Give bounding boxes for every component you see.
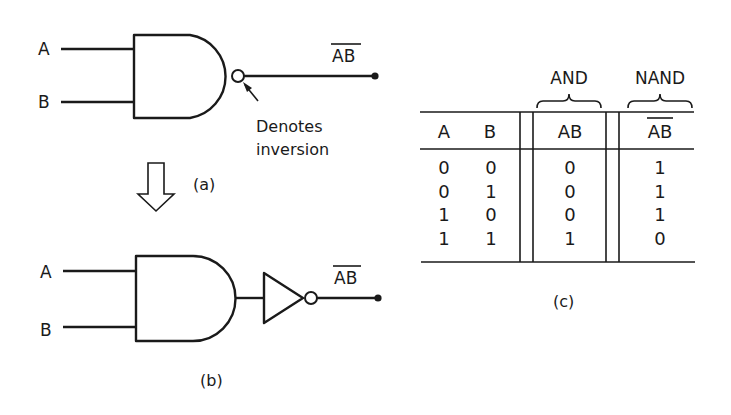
cell-nand: 1: [654, 204, 665, 225]
inversion-bubble-icon: [232, 70, 244, 82]
header-nand: AB: [648, 121, 673, 142]
cell-a: 0: [438, 181, 449, 202]
group-label-and: AND: [550, 68, 587, 88]
table-row: 0 1 0 1: [438, 181, 665, 202]
pointer-arrow-icon: [243, 82, 258, 101]
cell-and: 0: [564, 181, 575, 202]
input-b-label: B: [38, 92, 50, 112]
annotation-line1: Denotes: [256, 117, 323, 136]
input-a-label: A: [40, 262, 52, 282]
input-a-label: A: [38, 39, 50, 59]
and-gate-icon: [136, 256, 236, 341]
cell-b: 0: [485, 157, 496, 178]
caption-a: (a): [193, 175, 215, 194]
cell-a: 1: [438, 204, 449, 225]
table-row: 0 0 0 1: [438, 157, 665, 178]
part-b-and-not-circuit: A B AB: [40, 256, 382, 341]
cell-and: 0: [564, 204, 575, 225]
output-terminal-dot: [374, 294, 381, 301]
cell-nand: 1: [654, 181, 665, 202]
inversion-bubble-icon: [305, 292, 317, 304]
cell-b: 1: [485, 228, 496, 249]
cell-and: 0: [564, 157, 575, 178]
header-a: A: [438, 121, 451, 142]
header-and: AB: [558, 121, 583, 142]
header-b: B: [484, 121, 496, 142]
table-row: 1 1 1 0: [438, 228, 665, 249]
input-b-label: B: [40, 320, 52, 340]
nand-brace-icon: [628, 94, 692, 108]
cell-nand: 1: [654, 157, 665, 178]
table-row: 1 0 0 1: [438, 204, 665, 225]
inverter-triangle-icon: [264, 273, 303, 323]
caption-b: (b): [200, 371, 223, 390]
nand-gate-icon: [134, 35, 226, 118]
caption-c: (c): [553, 292, 574, 311]
group-label-nand: NAND: [635, 68, 685, 88]
cell-b: 1: [485, 181, 496, 202]
cell-a: 0: [438, 157, 449, 178]
and-brace-icon: [537, 94, 601, 108]
nand-equivalence-diagram: A B AB Denotes inversion (a) A B AB (b): [0, 0, 731, 415]
cell-nand: 0: [654, 228, 665, 249]
cell-b: 0: [485, 204, 496, 225]
truth-table: AND NAND A B AB AB 0 0 0 1 0 1 0 1: [420, 68, 695, 262]
hollow-down-arrow-icon: [138, 163, 174, 211]
cell-and: 1: [564, 228, 575, 249]
output-label: AB: [332, 46, 355, 66]
output-label: AB: [334, 268, 357, 288]
output-terminal-dot: [371, 72, 378, 79]
annotation-line2: inversion: [256, 140, 329, 159]
cell-a: 1: [438, 228, 449, 249]
part-a-nand-circuit: A B AB Denotes inversion: [38, 35, 379, 159]
